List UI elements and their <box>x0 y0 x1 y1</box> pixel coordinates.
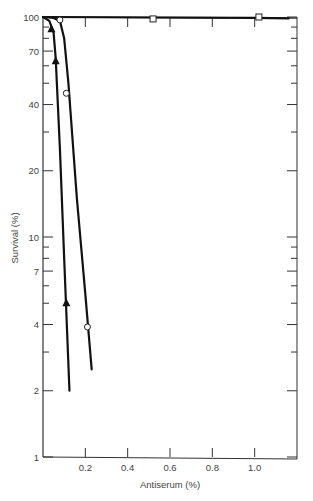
square-marker <box>256 14 262 20</box>
x-axis-title: Antiserum (%) <box>140 479 200 490</box>
x-axis-bottom <box>43 457 297 459</box>
y-tick-label: 100 <box>23 12 39 23</box>
y-tick-label: 20 <box>28 165 39 176</box>
x-tick-label: 0.6 <box>163 462 176 473</box>
y-tick-label: 70 <box>28 46 39 57</box>
circle-marker <box>84 324 90 330</box>
triangle-marker <box>52 56 60 64</box>
y-tick-label: 1 <box>34 452 39 463</box>
x-tick-label: 0.2 <box>79 462 92 473</box>
y-tick-label: 2 <box>34 385 39 396</box>
circle-marker <box>57 17 63 23</box>
square-marker <box>150 16 156 22</box>
y-tick-label: 40 <box>28 99 39 110</box>
x-tick-label: 1.0 <box>248 462 261 473</box>
y-tick-label: 10 <box>28 232 39 243</box>
triangle-marker <box>47 24 55 32</box>
circle-marker <box>63 90 69 96</box>
x-tick-label: 0.8 <box>206 462 219 473</box>
x-tick-label: 0.4 <box>121 462 134 473</box>
tick-labels: 1007040201074210.20.40.60.81.0 <box>23 12 261 474</box>
survival-chart: 1007040201074210.20.40.60.81.0 Antiserum… <box>0 0 313 501</box>
y-tick-label: 4 <box>34 319 39 330</box>
data-markers <box>47 14 261 330</box>
curve-triangle-filled <box>43 17 69 391</box>
curve-square-open <box>43 17 289 18</box>
y-tick-label: 7 <box>34 266 39 277</box>
y-axis-title: Survival (%) <box>9 212 20 263</box>
curves <box>43 17 289 391</box>
triangle-marker <box>62 298 70 306</box>
